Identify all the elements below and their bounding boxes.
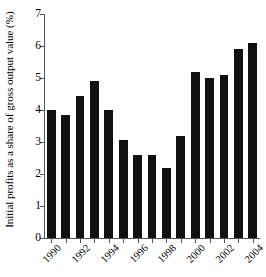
bar-1997 [148,155,157,238]
y-tick-label: 4 [35,104,41,116]
x-tick-label-1994: 1994 [99,243,121,265]
x-tick-label-1998: 1998 [157,243,179,265]
bar-2003 [234,49,243,238]
bar-1991 [61,115,70,238]
bar-1993 [90,81,99,238]
y-tick-label: 5 [35,72,41,84]
bar-1994 [104,110,113,238]
bar-2002 [220,75,229,238]
bar-2000 [191,72,200,238]
bar-1990 [47,110,56,238]
y-tick-label: 3 [35,136,41,148]
x-tick-label-2000: 2000 [185,243,207,265]
x-tick-label-2004: 2004 [243,243,265,265]
x-tick-label-1996: 1996 [128,243,150,265]
y-tick-label: 7 [35,8,41,20]
bars-layer [44,14,260,238]
y-tick-label: 0 [35,232,41,244]
bar-1999 [176,136,185,238]
y-tick-label: 1 [35,200,41,212]
y-tick-label: 6 [35,40,41,52]
y-tick-label: 2 [35,168,41,180]
y-axis-title: Initial profits as a share of gross outp… [0,0,18,240]
bar-2004 [248,43,257,238]
x-tick-label-2002: 2002 [214,243,236,265]
x-tick-label-1990: 1990 [41,243,63,265]
y-axis-title-label: Initial profits as a share of gross outp… [3,12,14,228]
bar-chart-figure: Initial profits as a share of gross outp… [0,0,266,277]
bar-1992 [76,96,85,238]
bar-1996 [133,155,142,238]
bar-1998 [162,168,171,238]
x-tick-label-1992: 1992 [70,243,92,265]
x-axis-labels: 19901992199419961998200020022004 [44,243,260,277]
plot-area: 01234567 [44,14,260,238]
bar-1995 [119,140,128,238]
bar-2001 [205,78,214,238]
